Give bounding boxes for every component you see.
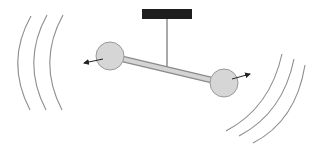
right-wave-arcs xyxy=(226,54,305,143)
right-ball xyxy=(210,69,238,97)
left-wave-arc-1 xyxy=(18,16,31,110)
dumbbell-wave-diagram xyxy=(0,0,321,154)
left-wave-arcs xyxy=(18,15,63,110)
left-wave-arc-3 xyxy=(50,15,63,110)
right-wave-arc-2 xyxy=(239,59,294,136)
right-wave-arc-3 xyxy=(253,65,305,143)
left-wave-arc-2 xyxy=(34,15,47,110)
left-ball xyxy=(96,42,124,70)
ceiling-mount xyxy=(142,9,192,19)
